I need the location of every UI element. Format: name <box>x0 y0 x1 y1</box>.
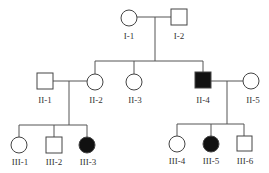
individual-II-1-male-symbol <box>37 73 53 89</box>
individual-III-1-female-symbol <box>11 137 27 153</box>
individual-III-3-affected-female-symbol <box>79 137 95 153</box>
individual-III-5-affected-female-symbol <box>203 136 219 152</box>
label-II-3: II-3 <box>128 95 142 105</box>
individual-II-2-female-symbol <box>87 74 103 90</box>
label-III-4: III-4 <box>169 156 186 166</box>
label-III-5: III-5 <box>203 156 220 166</box>
individual-III-2-male-symbol <box>46 137 62 153</box>
label-I-1: I-1 <box>124 31 135 41</box>
label-I-2: I-2 <box>174 31 185 41</box>
individual-II-3-female-symbol <box>126 74 142 90</box>
individual-II-4-affected-male-symbol <box>195 72 211 88</box>
individual-III-6-male-symbol <box>237 136 252 151</box>
label-II-1: II-1 <box>38 95 52 105</box>
label-II-5: II-5 <box>246 95 260 105</box>
individual-I-1-female-symbol <box>121 10 137 26</box>
label-III-6: III-6 <box>237 156 254 166</box>
individual-III-4-female-symbol <box>169 136 185 152</box>
individual-II-5-female-symbol <box>243 73 259 89</box>
label-III-1: III-1 <box>12 157 29 167</box>
individual-I-2-male-symbol <box>171 9 187 25</box>
label-II-2: II-2 <box>89 95 103 105</box>
label-II-4: II-4 <box>196 95 210 105</box>
label-III-3: III-3 <box>80 157 97 167</box>
pedigree-chart: I-1 I-2 II-1 II-2 II-3 II-4 II-5 III-1 I… <box>0 0 269 173</box>
label-III-2: III-2 <box>46 157 63 167</box>
